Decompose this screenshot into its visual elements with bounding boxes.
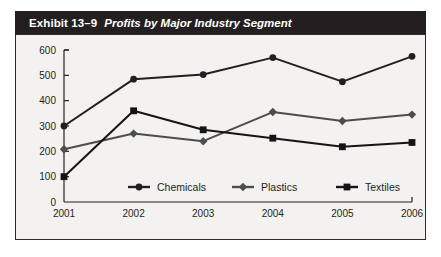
data-point-square (344, 184, 351, 191)
data-point-circle (130, 76, 137, 83)
exhibit-number-label: Exhibit 13–9 (29, 17, 97, 29)
data-point-diamond (408, 110, 416, 118)
y-tick-label: 600 (39, 45, 56, 56)
x-tick-label: 2002 (122, 208, 145, 219)
data-point-circle (61, 123, 68, 130)
exhibit-figure: Exhibit 13–9 Profits by Major Industry S… (0, 0, 441, 257)
data-point-circle (269, 54, 276, 61)
legend-label: Plastics (261, 181, 297, 193)
line-chart: 0100200300400500600200120022003200420052… (16, 35, 425, 239)
series-chemicals (61, 53, 416, 129)
data-point-diamond (199, 137, 207, 145)
x-tick-label: 2001 (53, 208, 76, 219)
x-tick-label: 2004 (262, 208, 285, 219)
data-point-square (61, 173, 68, 180)
x-tick-label: 2005 (331, 208, 354, 219)
y-tick-label: 100 (39, 171, 56, 182)
y-tick-label: 500 (39, 70, 56, 81)
data-point-diamond (338, 117, 346, 125)
legend-item-textiles: Textiles (336, 181, 400, 193)
data-point-circle (136, 184, 143, 191)
legend-label: Textiles (365, 181, 400, 193)
data-point-diamond (269, 108, 277, 116)
data-point-square (130, 107, 137, 114)
y-tick-label: 0 (50, 197, 56, 208)
data-point-square (409, 139, 416, 146)
data-point-circle (200, 71, 207, 78)
series-line (64, 112, 412, 149)
series-line (64, 111, 412, 177)
exhibit-title-bar: Exhibit 13–9 Profits by Major Industry S… (15, 11, 426, 34)
y-tick-label: 200 (39, 146, 56, 157)
data-point-square (339, 143, 346, 150)
x-tick-label: 2003 (192, 208, 215, 219)
y-tick-label: 300 (39, 121, 56, 132)
data-point-circle (409, 53, 416, 60)
data-point-circle (339, 78, 346, 85)
data-point-diamond (239, 183, 247, 191)
data-point-square (269, 135, 276, 142)
legend-item-chemicals: Chemicals (128, 181, 206, 193)
legend-label: Chemicals (157, 181, 206, 193)
chart-frame: 0100200300400500600200120022003200420052… (15, 34, 426, 240)
exhibit-caption: Profits by Major Industry Segment (104, 17, 291, 29)
series-line (64, 56, 412, 126)
data-point-diamond (60, 145, 68, 153)
data-point-diamond (129, 129, 137, 137)
legend-item-plastics: Plastics (232, 181, 297, 193)
x-tick-label: 2006 (401, 208, 424, 219)
data-point-square (200, 126, 207, 133)
y-tick-label: 400 (39, 95, 56, 106)
